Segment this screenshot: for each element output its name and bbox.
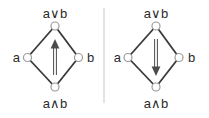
lattice-duality-figure: a∨b a b a∧b [0, 0, 209, 118]
join-label: a∨b [43, 6, 67, 21]
meet-node [152, 83, 160, 91]
join-node [152, 22, 160, 30]
b-node [175, 54, 183, 62]
down-arrow-icon [152, 39, 161, 76]
a-label: a [13, 50, 21, 65]
lattice-diagram-down: a∨b a b a∧b [114, 6, 195, 111]
meet-label: a∧b [43, 96, 67, 111]
meet-label: a∧b [144, 96, 168, 111]
a-label: a [114, 50, 122, 65]
diamond-edges [128, 26, 179, 87]
b-node [75, 54, 83, 62]
a-node [124, 54, 132, 62]
a-node [24, 54, 32, 62]
up-arrow-icon [51, 39, 60, 75]
join-label: a∨b [144, 6, 168, 21]
diagram-canvas: a∨b a b a∧b [0, 0, 209, 118]
b-label: b [188, 50, 195, 65]
diamond-edges [28, 26, 79, 87]
meet-node [51, 83, 59, 91]
lattice-diagram-up: a∨b a b a∧b [13, 6, 94, 111]
b-label: b [87, 50, 94, 65]
join-node [51, 22, 59, 30]
